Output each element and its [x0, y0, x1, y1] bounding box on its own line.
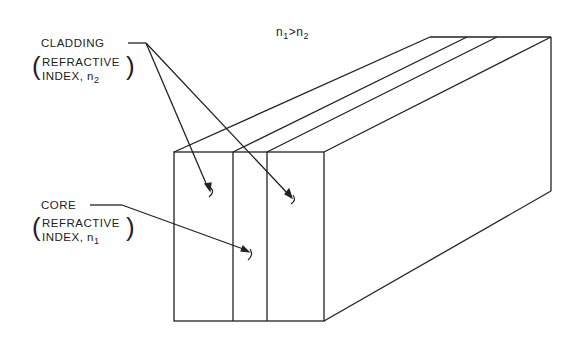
index-condition-label: n1>n2 [276, 26, 309, 43]
cladding-title: CLADDING [41, 37, 104, 50]
right-paren: ) [126, 53, 135, 79]
core-line2: REFRACTIVE [42, 217, 120, 230]
core-title: CORE [41, 199, 76, 212]
arrowhead-icon [205, 183, 211, 191]
left-paren: ( [32, 53, 41, 79]
core-line3: INDEX, n1 [42, 231, 99, 248]
left-paren: ( [32, 214, 41, 240]
waveguide-drawing [0, 0, 585, 337]
right-paren: ) [126, 214, 135, 240]
arrowhead-icon [285, 189, 292, 198]
cladding-line3: INDEX, n2 [42, 70, 99, 87]
cladding-line2: REFRACTIVE [42, 56, 120, 69]
arrowhead-icon [241, 246, 249, 252]
front-face [174, 152, 324, 321]
